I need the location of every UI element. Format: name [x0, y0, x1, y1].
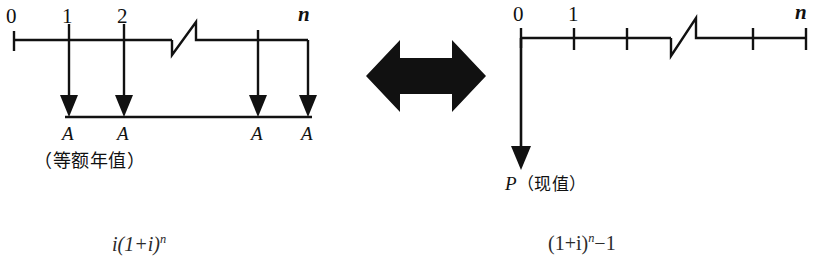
left-arrow-heads	[60, 95, 317, 117]
left-time-label-0: 0	[6, 6, 17, 27]
right-formula-tail: −1	[594, 232, 615, 254]
left-formula-exponent: n	[160, 232, 166, 246]
left-caption: （等额年值）	[34, 152, 145, 170]
present-value-symbol: P	[505, 173, 517, 194]
left-time-label-2: 2	[117, 6, 128, 27]
right-formula-open: (1+i)	[548, 232, 588, 254]
left-amount-label-4: A	[301, 124, 313, 143]
right-time-label-1: 1	[568, 4, 579, 25]
left-arrowhead-3	[249, 95, 267, 117]
left-timeline-group	[14, 22, 308, 55]
left-time-label-1: 1	[62, 6, 73, 27]
left-amount-label-1: A	[62, 124, 74, 143]
left-formula-partial: i(1+i)n	[112, 232, 166, 256]
left-axis-break-zigzag	[172, 22, 248, 55]
left-arrowhead-4	[299, 95, 317, 117]
left-time-label-n: n	[298, 4, 310, 25]
equivalence-arrow-icon	[366, 40, 486, 112]
left-payment-arrows	[69, 24, 308, 103]
right-axis-break-zigzag	[671, 18, 740, 56]
right-formula-partial: (1+i)n−1	[548, 231, 616, 255]
left-amount-label-2: A	[117, 124, 129, 143]
right-time-label-n: n	[795, 2, 807, 23]
present-value-caption: （现值）	[517, 174, 587, 194]
left-arrowhead-2	[115, 95, 133, 117]
right-arrow-head	[511, 146, 531, 170]
right-time-label-0: 0	[513, 4, 524, 25]
right-timeline-group	[521, 18, 806, 56]
left-formula-text: i(1+i)	[112, 233, 160, 255]
left-arrowhead-1	[60, 95, 78, 117]
present-value-label: P（现值）	[505, 174, 587, 193]
left-amount-label-3: A	[251, 124, 263, 143]
